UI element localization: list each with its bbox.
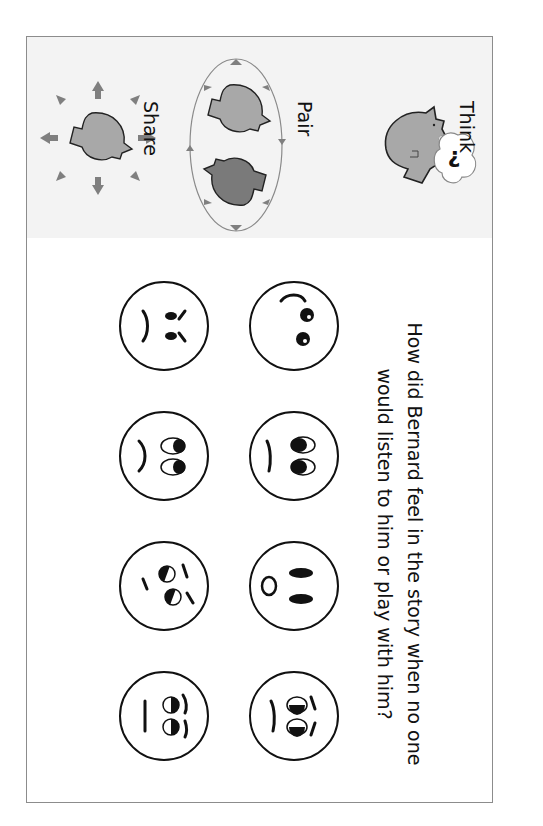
face-worried-icon[interactable]: [247, 669, 341, 763]
pair-heads-cycle-icon: [172, 55, 322, 235]
worksheet-frame: ? Think: [26, 36, 493, 803]
step-label-share: Share: [140, 101, 162, 156]
step-label-think: Think: [456, 101, 478, 153]
face-surprised-icon[interactable]: [247, 539, 341, 633]
step-label-pair: Pair: [294, 101, 316, 136]
worksheet-page: ? Think: [0, 0, 543, 826]
pair-label: Pair: [294, 101, 316, 136]
question-line-2: would listen to him or play with him?: [370, 304, 400, 784]
face-confused-icon[interactable]: [117, 539, 211, 633]
face-sad-icon[interactable]: [247, 409, 341, 503]
face-angry-icon[interactable]: [117, 279, 211, 373]
question-text: How did Bernard feel in the story when n…: [370, 304, 430, 784]
share-label: Share: [140, 101, 162, 156]
face-neutral-icon[interactable]: [117, 669, 211, 763]
face-happy-icon[interactable]: [247, 279, 341, 373]
face-upset-icon[interactable]: [117, 409, 211, 503]
think-pair-share-banner: ? Think: [27, 37, 492, 238]
question-line-1: How did Bernard feel in the story when n…: [400, 304, 430, 784]
think-label: Think: [456, 101, 478, 153]
